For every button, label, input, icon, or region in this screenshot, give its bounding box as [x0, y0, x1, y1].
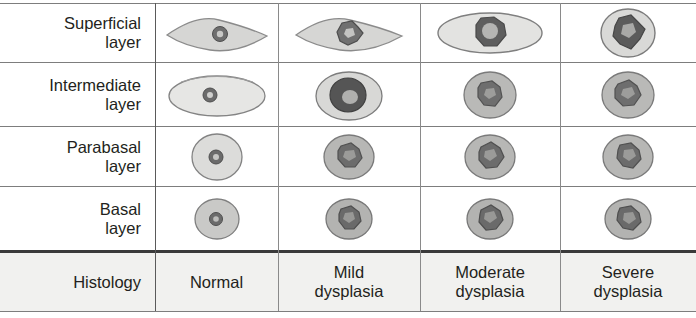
cell-diagram-circle-irregular-nucleus [596, 130, 660, 184]
header-cell-normal: Normal [155, 252, 278, 312]
cell-diagram-circle-irregular-nucleus [458, 130, 522, 184]
table-header-row: Histology Normal Mild dysplasia Moderate… [0, 252, 696, 312]
cell-intermediate-normal [155, 63, 278, 126]
cell-diagram-circle-irregular-nucleus [592, 68, 664, 122]
cell-diagram-round-large-nucleus [309, 68, 389, 122]
row-label-line2: layer [64, 33, 141, 52]
row-label-superficial: Superficial layer [0, 4, 155, 62]
cell-diagram-wide-ellipse [434, 8, 546, 58]
cell-diagram-circle-irregular-nucleus [317, 130, 381, 184]
row-label-line1: Parabasal [67, 138, 141, 157]
cell-basal-mild [278, 187, 420, 250]
row-label-basal: Basal layer [0, 187, 155, 250]
cell-diagram-circle-small-nucleus [187, 130, 247, 184]
header-line1: Moderate [455, 263, 525, 282]
cell-superficial-mild [278, 4, 420, 62]
cell-diagram-wide-ellipse [165, 69, 269, 121]
row-label-line1: Basal [100, 200, 141, 219]
table-row-superficial: Superficial layer [0, 4, 696, 62]
cell-diagram-circle-star-nucleus [591, 7, 665, 59]
cell-intermediate-mild [278, 63, 420, 126]
cell-diagram-circle-irregular-nucleus [461, 194, 519, 244]
histology-comparison-table: Superficial layer [0, 0, 696, 318]
header-line2: dysplasia [315, 282, 384, 301]
header-line1: Mild [315, 263, 384, 282]
row-label-line1: Superficial [64, 14, 141, 33]
table-row-parabasal: Parabasal layer [0, 127, 696, 186]
cell-superficial-normal [155, 4, 278, 62]
cell-diagram-lens-irregular-nucleus [290, 10, 408, 56]
cell-parabasal-moderate [420, 127, 560, 186]
cell-superficial-moderate [420, 4, 560, 62]
cell-diagram-circle-irregular-nucleus [599, 194, 657, 244]
row-label-line2: layer [67, 157, 141, 176]
cell-basal-moderate [420, 187, 560, 250]
row-label-intermediate: Intermediate layer [0, 63, 155, 126]
cell-diagram-lens [162, 10, 272, 56]
cell-diagram-circle-irregular-nucleus [320, 194, 378, 244]
header-label-histology: Histology [0, 252, 155, 312]
header-line1: Severe [594, 263, 663, 282]
cell-diagram-circle-small-nucleus [190, 194, 244, 244]
header-line1: Normal [190, 273, 243, 292]
cell-diagram-circle-irregular-nucleus [454, 68, 526, 122]
row-label-line1: Intermediate [49, 76, 141, 95]
cell-intermediate-moderate [420, 63, 560, 126]
cell-parabasal-mild [278, 127, 420, 186]
cell-basal-normal [155, 187, 278, 250]
header-cell-moderate: Moderate dysplasia [420, 252, 560, 312]
cell-parabasal-normal [155, 127, 278, 186]
header-line2: dysplasia [455, 282, 525, 301]
cell-basal-severe [560, 187, 696, 250]
table-row-basal: Basal layer [0, 187, 696, 250]
row-label-line2: layer [49, 95, 141, 114]
header-cell-mild: Mild dysplasia [278, 252, 420, 312]
table-row-intermediate: Intermediate layer [0, 63, 696, 126]
header-line2: dysplasia [594, 282, 663, 301]
header-cell-severe: Severe dysplasia [560, 252, 696, 312]
cell-superficial-severe [560, 4, 696, 62]
cell-intermediate-severe [560, 63, 696, 126]
row-label-line2: layer [100, 219, 141, 238]
row-label-parabasal: Parabasal layer [0, 127, 155, 186]
cell-parabasal-severe [560, 127, 696, 186]
